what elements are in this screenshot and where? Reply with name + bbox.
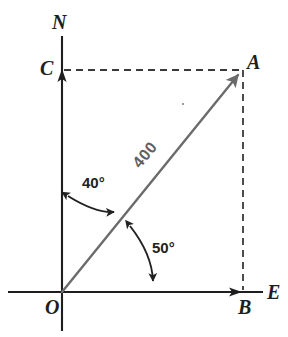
axis-label-east: E — [267, 282, 280, 302]
axis-label-north: N — [52, 12, 66, 32]
angle-arc-50 — [130, 226, 153, 281]
angle-label-40: 40° — [82, 175, 105, 190]
point-label-b: B — [238, 297, 251, 317]
point-label-c: C — [40, 58, 53, 78]
angle-arc-40 — [68, 196, 114, 212]
point-label-a: A — [247, 52, 260, 72]
stray-speck — [182, 103, 184, 105]
point-label-o: O — [45, 297, 59, 317]
angle-label-50: 50° — [152, 240, 175, 255]
vector-diagram-figure: N C A O B E 40° 50° 400 — [0, 0, 288, 337]
